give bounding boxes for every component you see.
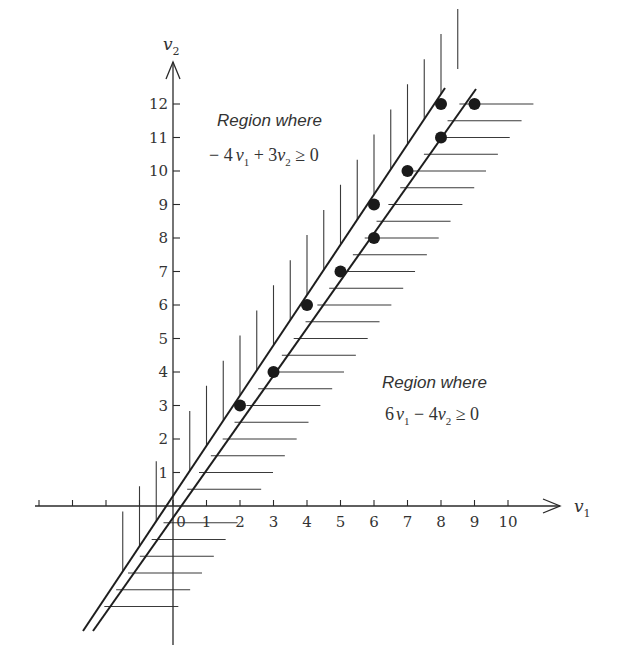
data-point xyxy=(268,366,280,378)
x-tick-label: 1 xyxy=(202,513,212,531)
data-point xyxy=(469,98,481,110)
x-tick-label: 9 xyxy=(470,513,480,531)
y-tick-label: 5 xyxy=(158,330,168,348)
region-lower-expression: 6v1 − 4v2 ≥ 0 xyxy=(385,404,479,427)
x-axis-ticks: 012345678910 xyxy=(39,500,518,531)
data-point xyxy=(234,400,246,412)
data-point xyxy=(368,199,380,211)
horizontal-hatching xyxy=(104,104,533,607)
x-tick-label: 5 xyxy=(336,513,346,531)
y-tick-label: 6 xyxy=(158,296,168,314)
y-tick-label: 10 xyxy=(149,162,168,180)
data-point xyxy=(435,132,447,144)
y-tick-label: 11 xyxy=(149,129,168,147)
x-tick-label: 10 xyxy=(498,513,517,531)
x-tick-label: 6 xyxy=(369,513,379,531)
y-tick-label: 4 xyxy=(158,363,168,381)
boundary-line-6v1-minus-4v2 xyxy=(83,88,445,631)
y-tick-label: 12 xyxy=(149,95,168,113)
data-point xyxy=(402,165,414,177)
y-tick-label: 7 xyxy=(158,263,168,281)
y-tick-label: 1 xyxy=(158,464,168,482)
y-axis-label: v2 xyxy=(163,34,180,58)
x-tick-label: 4 xyxy=(302,513,312,531)
region-upper-expression: − 4v1 + 3v2 ≥ 0 xyxy=(209,145,319,168)
data-point xyxy=(335,266,347,278)
x-tick-label: 3 xyxy=(269,513,279,531)
x-tick-label: 0 xyxy=(176,513,186,531)
data-point xyxy=(368,232,380,244)
y-axis-ticks: 123456789101112 xyxy=(149,95,180,482)
data-point xyxy=(301,299,313,311)
y-tick-label: 3 xyxy=(158,397,168,415)
x-axis-label: v1 xyxy=(574,496,591,520)
y-tick-label: 9 xyxy=(158,196,168,214)
y-tick-label: 2 xyxy=(158,430,168,448)
region-lower-title: Region where xyxy=(382,373,487,392)
data-point xyxy=(435,98,447,110)
x-tick-label: 7 xyxy=(403,513,413,531)
x-tick-label: 2 xyxy=(235,513,245,531)
feasible-region-chart: 012345678910 123456789101112 v2 v1 Regio… xyxy=(0,0,624,670)
y-tick-label: 8 xyxy=(158,229,168,247)
region-upper-title: Region where xyxy=(217,111,322,130)
x-tick-label: 8 xyxy=(436,513,446,531)
